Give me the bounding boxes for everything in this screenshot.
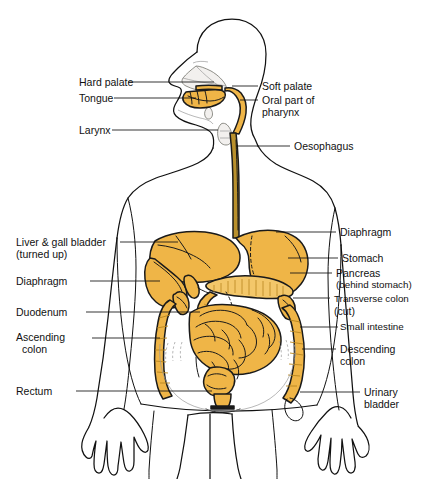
label-transverse-colon: Transverse colon <box>334 293 409 304</box>
label-duodenum: Duodenum <box>16 306 67 318</box>
label-diaphragm-right: Diaphragm <box>340 226 391 238</box>
ascending-colon-shape <box>155 300 176 399</box>
label-liver: Liver & gall bladder <box>16 236 106 248</box>
label-ascending-colon: Ascending <box>16 331 65 343</box>
label-stomach: Stomach <box>342 252 383 264</box>
label-transverse-colon-sub: (cut) <box>334 305 355 317</box>
anatomy-diagram: Hard palate Tongue Larynx Liver & gall b… <box>0 0 430 479</box>
label-descending-colon: Descending <box>340 343 395 355</box>
rectum-shape <box>214 394 231 407</box>
label-liver-sub: (turned up) <box>16 248 67 260</box>
label-pancreas: Pancreas <box>336 267 380 279</box>
appendix-shape <box>196 357 199 377</box>
abdominal-organs <box>145 230 308 412</box>
label-oesophagus: Oesophagus <box>294 140 354 152</box>
sigmoid-colon-shape <box>204 367 235 396</box>
label-descending-colon-sub: colon <box>340 355 365 367</box>
label-hard-palate: Hard palate <box>79 76 133 88</box>
label-soft-palate: Soft palate <box>262 80 312 92</box>
label-rectum: Rectum <box>16 385 52 397</box>
label-diaphragm-left: Diaphragm <box>16 275 67 287</box>
label-ascending-colon-sub: colon <box>22 343 47 355</box>
label-tongue: Tongue <box>79 92 113 104</box>
oesophagus <box>230 133 239 238</box>
label-larynx: Larynx <box>79 124 111 136</box>
label-oral-pharynx: Oral part of <box>262 94 315 106</box>
label-pancreas-sub: (behind stomach) <box>336 279 412 290</box>
descending-colon-shape <box>282 305 304 403</box>
label-oral-pharynx-sub: pharynx <box>262 106 299 118</box>
label-small-intestine: Small intestine <box>340 321 404 332</box>
label-urinary-bladder: Urinary <box>364 386 398 398</box>
small-intestine-shape <box>189 304 281 381</box>
label-urinary-bladder-sub: bladder <box>364 398 399 410</box>
